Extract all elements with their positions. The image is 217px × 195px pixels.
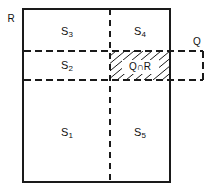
subregion-label-base: S [134, 25, 141, 37]
subregion-label-s5: S5 [134, 126, 146, 140]
subregion-label-subscript: 3 [68, 30, 73, 39]
region-r-boundary [23, 9, 170, 182]
subregion-label-base: S [61, 59, 68, 71]
subregion-label-s3: S3 [61, 25, 73, 39]
region-r-label: R [7, 13, 14, 24]
hatch-line [90, 51, 125, 80]
hatch-line [162, 51, 197, 80]
query-region-label: Q [193, 36, 201, 47]
subregion-label-base: S [134, 126, 141, 138]
subregion-label-subscript: 1 [68, 131, 73, 140]
hatch-line [72, 51, 107, 80]
set-intersection-diagram: R Q S3S4S2S1S5 Q∩R [0, 0, 217, 195]
subregion-label-s1: S1 [61, 126, 73, 140]
subregion-label-base: S [61, 126, 68, 138]
subregion-labels: S3S4S2S1S5 [61, 25, 146, 140]
subregion-label-s4: S4 [134, 25, 146, 39]
hatch-line [171, 51, 206, 80]
subregion-label-subscript: 2 [68, 64, 73, 73]
subregion-label-subscript: 5 [141, 131, 146, 140]
subregion-label-base: S [61, 25, 68, 37]
subregion-label-subscript: 4 [141, 30, 146, 39]
intersection-label: Q∩R [129, 61, 151, 72]
subregion-label-s2: S2 [61, 59, 73, 73]
diagram-canvas: R Q S3S4S2S1S5 Q∩R [0, 0, 217, 195]
